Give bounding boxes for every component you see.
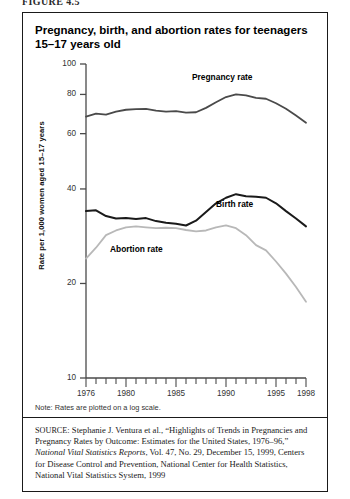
y-tick-label: 60 <box>50 129 76 138</box>
y-tick-label: 40 <box>50 184 76 193</box>
y-tick-label: 80 <box>50 89 76 98</box>
y-axis-label: Rate per 1,000 women aged 15–17 years <box>37 116 46 276</box>
series-label-pregnancy-rate: Pregnancy rate <box>192 72 253 82</box>
x-tick-label: 1990 <box>209 389 243 398</box>
y-tick-label: 10 <box>50 373 76 382</box>
source-text-a: : Stephanie J. Ventura et al., “Highligh… <box>35 425 307 446</box>
y-tick-label: 100 <box>50 59 76 68</box>
figure-number: FIGURE 4.5 <box>22 0 80 7</box>
x-tick-label: 1985 <box>159 389 193 398</box>
x-tick-label: 1980 <box>109 389 143 398</box>
figure-container: Pregnancy, birth, and abortion rates for… <box>22 12 328 492</box>
x-tick-label: 1998 <box>289 389 323 398</box>
source-publication-title: National Vital Statistics Reports <box>35 447 145 457</box>
series-label-birth-rate: Birth rate <box>216 199 253 209</box>
source-prefix: SOURCE <box>35 426 67 435</box>
x-tick-label: 1995 <box>259 389 293 398</box>
x-tick-label: 1976 <box>69 389 103 398</box>
chart-plot-area: Rate per 1,000 women aged 15–17 years 10… <box>23 13 329 413</box>
line-chart-svg <box>23 13 329 413</box>
series-label-abortion-rate: Abortion rate <box>110 244 163 254</box>
section-divider <box>23 417 327 418</box>
source-citation: SOURCE: Stephanie J. Ventura et al., “Hi… <box>35 425 313 481</box>
chart-note: Note: Rates are plotted on a log scale. <box>35 403 315 412</box>
y-tick-label: 20 <box>50 278 76 287</box>
